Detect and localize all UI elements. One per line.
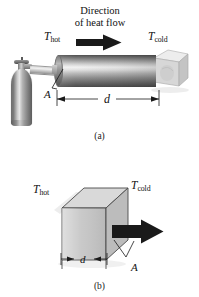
panel-a-t-hot-label: Thot bbox=[44, 31, 60, 43]
panel-a-distance-label: d bbox=[104, 93, 110, 105]
panel-b-distance-label: d bbox=[80, 254, 86, 265]
panel-b-area-label: A bbox=[131, 262, 138, 273]
heat-flow-title-line2: of heat flow bbox=[35, 17, 165, 29]
panel-b-t-hot-subscript: hot bbox=[39, 188, 49, 197]
panel-a-t-cold-label: Tcold bbox=[148, 31, 167, 43]
heat-flow-title-line1: Direction bbox=[35, 5, 165, 17]
heat-flow-arrow-icon bbox=[76, 34, 122, 51]
panel-a-caption: (a) bbox=[0, 131, 199, 141]
thermal-conduction-figure: Direction of heat flow Thot Tcold bbox=[0, 0, 199, 297]
panel-a-t-cold-subscript: cold bbox=[154, 35, 167, 44]
panel-a-area-label: A bbox=[44, 89, 51, 100]
gas-cylinder-base bbox=[11, 120, 32, 126]
panel-b-t-hot-label: Thot bbox=[33, 184, 49, 196]
panel-a-t-hot-subscript: hot bbox=[50, 35, 60, 44]
metal-rod-shading bbox=[58, 55, 156, 87]
gas-cylinder-tank bbox=[11, 69, 32, 125]
panel-b-caption: (b) bbox=[0, 281, 199, 291]
heat-flow-title: Direction of heat flow bbox=[35, 5, 165, 28]
